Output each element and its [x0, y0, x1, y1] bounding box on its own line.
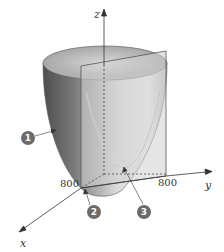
callout-3: 3 — [137, 205, 151, 219]
y-axis-label: y — [205, 180, 211, 191]
z-axis-arrow-icon — [102, 9, 107, 16]
paraboloid-diagram — [0, 0, 224, 252]
diagram-canvas: z y x 800 800 1 2 3 — [0, 0, 224, 252]
x-axis — [23, 188, 81, 229]
callout-2: 2 — [87, 205, 101, 219]
x-axis-label: x — [20, 238, 26, 249]
x-axis-tick-800: 800 — [60, 179, 79, 189]
z-axis-label: z — [94, 9, 100, 20]
y-axis-arrow-icon — [205, 169, 212, 175]
y-axis-tick-800: 800 — [158, 178, 177, 188]
callout-1: 1 — [21, 131, 35, 145]
x-axis-arrow-icon — [19, 226, 26, 232]
